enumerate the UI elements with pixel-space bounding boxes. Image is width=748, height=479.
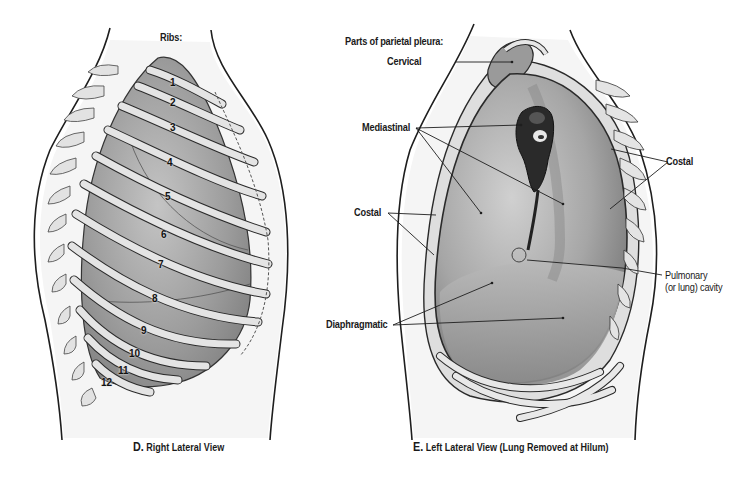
rib-number-1: 1 <box>170 77 176 88</box>
label-mediastinal: Mediastinal <box>362 122 410 133</box>
caption-e-letter: E. <box>413 440 423 454</box>
rib-number-3: 3 <box>170 122 176 133</box>
rib-number-12: 12 <box>101 377 112 388</box>
label-costal-left: Costal <box>354 207 381 218</box>
caption-d-letter: D. <box>133 440 144 454</box>
caption-e: E. Left Lateral View (Lung Removed at Hi… <box>413 440 609 454</box>
rib-number-9: 9 <box>141 325 147 336</box>
rib-number-10: 10 <box>129 348 140 359</box>
caption-e-text: Left Lateral View (Lung Removed at Hilum… <box>426 442 609 453</box>
rib-number-6: 6 <box>161 229 167 240</box>
label-costal-right: Costal <box>666 156 693 167</box>
caption-d-text: Right Lateral View <box>146 442 224 453</box>
rib-number-8: 8 <box>152 293 158 304</box>
rib-number-2: 2 <box>170 97 176 108</box>
label-diaphragmatic: Diaphragmatic <box>326 319 388 330</box>
label-pulmonary-line2: (or lung) cavity <box>665 282 722 293</box>
panel-d-illustration <box>0 0 748 479</box>
caption-d: D. Right Lateral View <box>133 440 224 454</box>
rib-number-11: 11 <box>118 365 129 376</box>
ribs-header: Ribs: <box>160 32 182 43</box>
parietal-pleura-header: Parts of parietal pleura: <box>345 36 443 47</box>
rib-number-7: 7 <box>158 259 164 270</box>
label-cervical: Cervical <box>387 56 421 67</box>
rib-number-4: 4 <box>167 157 173 168</box>
anatomy-figure: Ribs: 1 2 3 4 5 6 7 8 9 10 11 12 D. Righ… <box>0 0 748 479</box>
label-pulmonary-line1: Pulmonary <box>665 270 707 281</box>
rib-number-5: 5 <box>165 191 171 202</box>
